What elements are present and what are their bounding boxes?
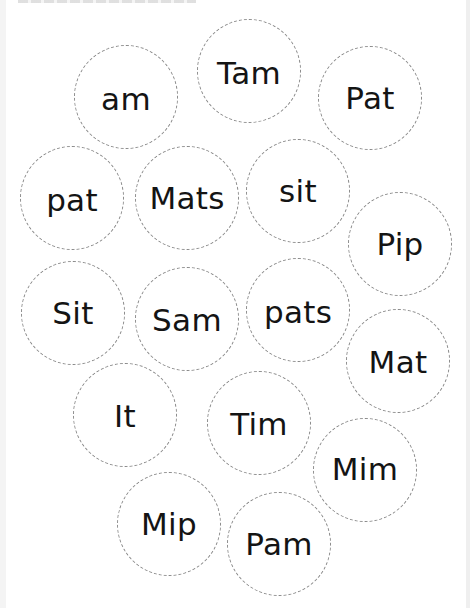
word-label: Sit (52, 298, 93, 329)
word-label: Pat (345, 83, 394, 114)
page-edge-left (0, 0, 6, 608)
word-label: Pip (376, 229, 423, 260)
word-bubble: Sit (21, 261, 125, 365)
word-bubble: Tim (207, 371, 311, 475)
word-label: Mim (332, 454, 398, 485)
word-label: Tim (230, 409, 288, 440)
word-bubble: Pat (318, 46, 422, 150)
word-bubble: Sam (135, 267, 239, 371)
word-bubble: It (73, 363, 177, 467)
word-label: Mip (141, 509, 197, 540)
word-bubble: pats (246, 258, 350, 362)
word-label: Sam (152, 305, 222, 336)
word-bubble: Tam (197, 19, 301, 123)
word-label: Mats (149, 183, 224, 214)
clipped-page-title (18, 0, 196, 3)
word-bubble: Pam (227, 492, 331, 596)
word-bubble: Mim (313, 418, 417, 522)
word-bubble: sit (246, 139, 350, 243)
word-bubble: Mat (346, 309, 450, 413)
word-label: pats (264, 297, 332, 328)
word-label: am (101, 84, 151, 115)
page-edge-right (466, 0, 470, 608)
word-bubble: Mip (117, 472, 221, 576)
word-bubble: Mats (135, 146, 239, 250)
word-label: Mat (369, 347, 428, 378)
word-label: It (114, 401, 136, 432)
word-label: pat (46, 185, 98, 216)
word-label: Pam (245, 529, 312, 560)
word-label: Tam (217, 58, 281, 89)
word-bubble: pat (20, 146, 124, 250)
word-bubble: am (74, 45, 178, 149)
word-label: sit (279, 176, 317, 207)
word-bubble: Pip (348, 192, 452, 296)
